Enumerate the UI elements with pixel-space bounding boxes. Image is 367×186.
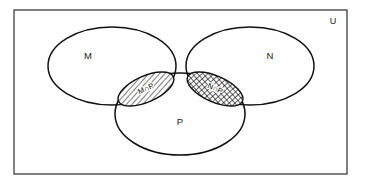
set-label-m: M	[84, 50, 92, 61]
set-label-n: N	[267, 50, 274, 61]
set-label-p: P	[177, 116, 183, 127]
universal-set-label: U	[330, 16, 337, 26]
venn-diagram-canvas: U M N P M∩P M∩P N∩P N∩P	[0, 0, 367, 186]
venn-diagram-figure: U M N P M∩P M∩P N∩P N∩P	[0, 0, 367, 186]
